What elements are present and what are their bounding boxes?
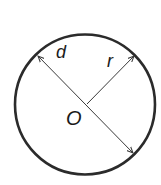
diameter-label: d [56, 42, 67, 62]
circle-diagram: d r O [0, 0, 161, 185]
radius-label: r [107, 51, 114, 71]
center-label: O [66, 107, 82, 129]
diameter-line [38, 56, 133, 153]
